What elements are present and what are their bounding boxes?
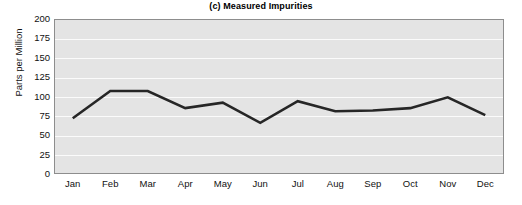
x-axis-tick-label: Nov [439,179,456,189]
x-axis-tick-label: Jul [292,179,304,189]
x-axis-tick-label: Aug [327,179,344,189]
x-axis-tick-label: Jan [65,179,80,189]
x-axis-tick-label: Jun [253,179,268,189]
x-axis-tick-label: Oct [403,179,418,189]
series-line-measured-impurities [73,91,486,123]
y-axis-tick-label: 0 [4,169,50,179]
x-axis-tick-label: May [214,179,232,189]
y-axis-tick-label: 100 [4,92,50,102]
x-axis-tick-labels: JanFebMarAprMayJunJulAugSepOctNovDec [54,179,504,195]
chart-title: (c) Measured Impurities [0,1,522,11]
y-axis-tick-label: 150 [4,53,50,63]
y-axis-tick-labels: 0255075100125150175200 [0,0,50,205]
chart-figure: (c) Measured Impurities Parts per Millio… [0,0,522,205]
x-axis-tick-label: Feb [102,179,118,189]
x-axis-tick-label: Dec [477,179,494,189]
y-axis-tick-label: 125 [4,72,50,82]
x-axis-tick-label: Sep [364,179,381,189]
y-axis-tick-label: 25 [4,150,50,160]
y-axis-tick-label: 50 [4,130,50,140]
y-axis-tick-label: 200 [4,14,50,24]
x-axis-tick-label: Apr [178,179,193,189]
data-line-layer [54,19,504,174]
y-axis-tick-label: 75 [4,111,50,121]
y-axis-tick-label: 175 [4,33,50,43]
x-axis-tick-label: Mar [140,179,156,189]
